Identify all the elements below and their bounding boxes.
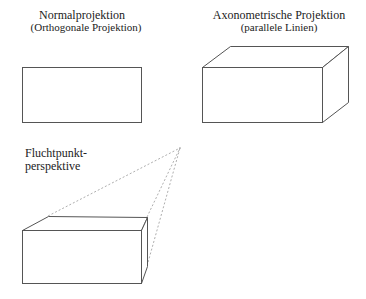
normal-projection-subtitle: (Orthogonale Projektion) [31, 21, 142, 34]
axonometric-box-front-face [203, 68, 323, 123]
vanishing-line-bottom-right [147, 148, 180, 266]
perspective-panel: Fluchtpunkt- perspektive [23, 146, 181, 284]
axonometric-projection-panel: Axonometrische Projektion (parallele Lin… [203, 8, 349, 123]
normal-projection-panel: Normalprojektion (Orthogonale Projektion… [23, 8, 142, 123]
perspective-box-top-face [23, 217, 148, 231]
perspective-title-line2: perspektive [25, 159, 80, 173]
axonometric-projection-subtitle: (parallele Linien) [241, 21, 318, 34]
perspective-box-side-face [142, 218, 148, 284]
normal-projection-title: Normalprojektion [39, 8, 125, 22]
axonometric-projection-title: Axonometrische Projektion [213, 8, 345, 22]
orthogonal-rectangle [23, 68, 142, 123]
perspective-box-front-face [23, 231, 142, 284]
projection-diagram: Normalprojektion (Orthogonale Projektion… [0, 0, 366, 299]
perspective-title-line1: Fluchtpunkt- [25, 146, 87, 160]
vanishing-point [179, 147, 181, 149]
